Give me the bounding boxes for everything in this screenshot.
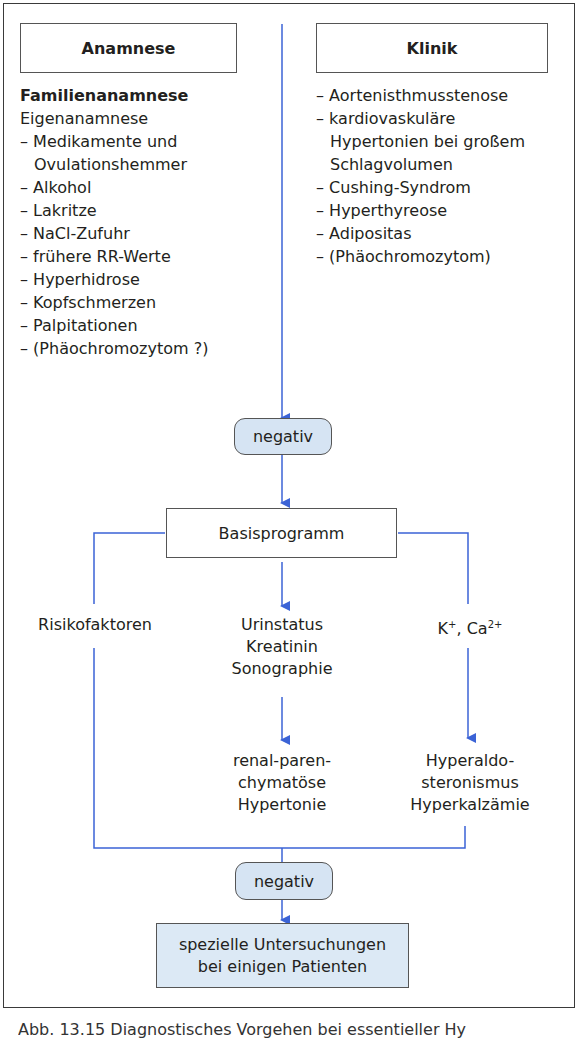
- kreatinin-text: Kreatinin: [207, 636, 357, 658]
- anamnese-list: Familienanamnese Eigenanamnese Medikamen…: [20, 84, 270, 360]
- klinik-list: Aortenisthmusstenose kardiovaskuläre Hyp…: [316, 84, 556, 268]
- klinik-item: Adipositas: [316, 222, 556, 245]
- negativ-node-1: negativ: [234, 418, 332, 455]
- renal-text-2: chymatöse: [207, 772, 357, 794]
- final-text-1: spezielle Untersuchungen: [179, 934, 386, 956]
- final-text-2: bei einigen Patienten: [198, 956, 367, 978]
- anamnese-item: frühere RR-Werte: [20, 245, 270, 268]
- special-examinations-node: spezielle Untersuchungen bei einigen Pat…: [156, 923, 409, 988]
- line-right-branch-top: [398, 533, 468, 604]
- sonographie-text: Sonographie: [207, 658, 357, 680]
- line-left-branch-top: [94, 533, 165, 604]
- hyperaldosteronism-node: Hyperaldo- steronismus Hyperkalzämie: [395, 750, 545, 816]
- renal-parenchymal-node: renal-paren- chymatöse Hypertonie: [207, 750, 357, 816]
- familienanamnese-label: Familienanamnese: [20, 84, 270, 107]
- hyperaldo-text-2: steronismus: [395, 772, 545, 794]
- risikofaktoren-label: Risikofaktoren: [20, 614, 170, 636]
- basisprogramm-node: Basisprogramm: [166, 508, 397, 558]
- eigenanamnese-label: Eigenanamnese: [20, 107, 270, 130]
- anamnese-item: Lakritze: [20, 199, 270, 222]
- klinik-header: Klinik: [316, 23, 548, 73]
- anamnese-item: Hyperhidrose: [20, 268, 270, 291]
- anamnese-item: (Phäochromozytom ?): [20, 337, 270, 360]
- negativ-node-2: negativ: [235, 862, 333, 900]
- potassium-text: K: [438, 619, 449, 638]
- klinik-item: kardiovaskuläre Hypertonien bei großem S…: [316, 107, 550, 176]
- klinik-item: (Phäochromozytom): [316, 245, 556, 268]
- calcium-charge: 2+: [488, 619, 503, 630]
- hyperaldo-text-3: Hyperkalzämie: [395, 794, 545, 816]
- anamnese-item: Medikamente und Ovulationshemmer: [20, 130, 204, 176]
- anamnese-item: Kopfschmerzen: [20, 291, 270, 314]
- figure-caption: Abb. 13.15 Diagnostisches Vorgehen bei e…: [18, 1020, 466, 1039]
- urinstatus-node: Urinstatus Kreatinin Sonographie: [207, 614, 357, 680]
- urinstatus-text: Urinstatus: [207, 614, 357, 636]
- calcium-text: , Ca: [456, 619, 487, 638]
- anamnese-header: Anamnese: [20, 23, 237, 73]
- klinik-item: Cushing-Syndrom: [316, 176, 556, 199]
- klinik-item: Aortenisthmusstenose: [316, 84, 556, 107]
- klinik-item: Hyperthyreose: [316, 199, 556, 222]
- anamnese-item: NaCl-Zufuhr: [20, 222, 270, 245]
- renal-text-3: Hypertonie: [207, 794, 357, 816]
- electrolytes-label: K+, Ca2+: [400, 614, 540, 640]
- anamnese-item: Alkohol: [20, 176, 270, 199]
- renal-text-1: renal-paren-: [207, 750, 357, 772]
- anamnese-item: Palpitationen: [20, 314, 270, 337]
- hyperaldo-text-1: Hyperaldo-: [395, 750, 545, 772]
